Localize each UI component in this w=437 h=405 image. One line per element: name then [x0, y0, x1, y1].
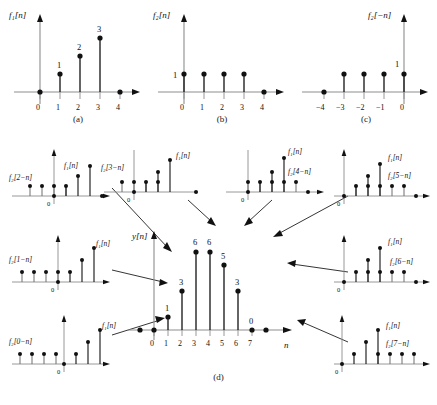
stem-point — [117, 89, 122, 94]
y-axis-arrowhead — [340, 315, 345, 322]
y-axis-arrowhead — [181, 14, 187, 22]
tick-label: 0 — [150, 339, 154, 348]
value-label: 5 — [221, 251, 225, 261]
x-axis-arrowhead — [103, 362, 110, 367]
tick-label: 7 — [248, 339, 252, 348]
result-panel-y: 1 3 6 6 5 3 0 0 1 2 3 4 5 6 7 y[n] n — [126, 218, 316, 358]
overlay-panel-k7: f₂[7−n] f₁[n] 0 — [332, 312, 436, 376]
y-axis-arrowhead — [342, 235, 347, 242]
stem-point — [249, 327, 254, 332]
x-axis-label: n — [284, 340, 289, 350]
tick-label: 3 — [96, 103, 100, 112]
x-axis-arrowhead — [276, 89, 284, 95]
overlay-label-f2: f₂[6−n] — [390, 257, 413, 266]
tick-label: 5 — [220, 339, 224, 348]
value-label: 3 — [179, 277, 183, 287]
stem-point — [37, 89, 42, 94]
tick-label: −4 — [316, 103, 325, 112]
stem-point — [181, 71, 186, 76]
overlay-label-f1: f₁[n] — [288, 147, 302, 156]
overlay-label-f1: f₁[n] — [388, 237, 402, 246]
tick-label: −3 — [336, 103, 345, 112]
overlay-label-f1: f₁[n] — [102, 321, 116, 330]
value-label: 3 — [97, 24, 101, 34]
stem-point — [361, 71, 366, 76]
overlay-k6-chart: f₂[6−n] f₁[n] 0 — [332, 232, 436, 294]
stem-point — [261, 89, 266, 94]
origin-label: 0 — [51, 286, 54, 293]
stem-point — [221, 262, 226, 267]
caption-b: (b) — [152, 114, 292, 124]
stem-point — [193, 249, 198, 254]
tick-label: 1 — [200, 103, 204, 112]
value-label: 0 — [249, 316, 253, 326]
overlay-panel-k5: f₂[5−n] f₁[n] 0 — [332, 146, 436, 208]
overlay-label-f2: f₂[3−n] — [101, 163, 124, 172]
y-axis-label: f₁[n] — [9, 10, 27, 20]
y-axis-label: y[n] — [131, 231, 148, 241]
y-axis-arrowhead — [151, 231, 157, 239]
y-axis-arrowhead — [401, 14, 407, 22]
overlay-label-f2: f₂[0−n] — [9, 337, 32, 346]
origin-label: 0 — [241, 196, 244, 203]
tick-label: 0 — [180, 103, 184, 112]
overlay-k4-chart: f₂[4−n] f₁[n] 0 — [222, 142, 328, 204]
stem-point — [207, 249, 212, 254]
overlay-k7-chart: f₂[7−n] f₁[n] 0 — [332, 312, 436, 376]
overlay-label-f2: f₂[1−n] — [9, 255, 32, 264]
panel-c: 1 −4 −3 −2 −1 0 f₂[−n] (c) — [296, 4, 436, 124]
value-label: 1 — [395, 59, 399, 69]
panel-a-chart: 1 2 3 0 1 2 3 4 f₁[n] — [8, 4, 148, 116]
caption-c: (c) — [296, 114, 436, 124]
caption-d: (d) — [0, 372, 437, 382]
stem-point — [201, 71, 206, 76]
value-label: 1 — [165, 303, 169, 313]
stem-point — [401, 71, 406, 76]
tick-label: 0 — [36, 103, 40, 112]
x-axis-arrowhead — [132, 89, 140, 95]
tick-label: 2 — [76, 103, 80, 112]
overlay-label-f2: f₂[7−n] — [386, 339, 409, 348]
overlay-label-f2: f₂[5−n] — [388, 171, 411, 180]
y-axis-arrowhead — [342, 149, 347, 156]
x-axis-arrowhead — [423, 280, 430, 285]
overlay-panel-k1: f₂[1−n] f₁[n] 0 — [8, 232, 116, 294]
stem-point — [179, 288, 184, 293]
tick-label: −2 — [356, 103, 365, 112]
x-axis-arrowhead — [420, 89, 428, 95]
stem-point — [341, 71, 346, 76]
value-label: 2 — [77, 42, 81, 52]
overlay-label-f1: f₁[n] — [176, 151, 190, 160]
tick-label: 1 — [164, 339, 168, 348]
x-axis-arrowhead — [103, 280, 110, 285]
stem-point — [221, 71, 226, 76]
stem-point — [57, 71, 62, 76]
tick-label: 3 — [192, 339, 196, 348]
stem-point — [97, 35, 102, 40]
tick-label: 4 — [116, 103, 120, 112]
value-label: 6 — [207, 237, 211, 247]
stem-point — [137, 327, 142, 332]
value-label: 1 — [173, 70, 177, 80]
tick-label: 2 — [178, 339, 182, 348]
panel-b-chart: 1 0 1 2 3 4 f₂[n] — [152, 4, 292, 116]
value-label: 3 — [235, 277, 239, 287]
stem-point — [381, 71, 386, 76]
tick-label: 6 — [234, 339, 238, 348]
panel-c-chart: 1 −4 −3 −2 −1 0 f₂[−n] — [296, 4, 436, 116]
value-label: 1 — [57, 60, 61, 70]
overlay-label-f1: f₁[n] — [386, 321, 400, 330]
origin-label: 0 — [337, 286, 340, 293]
x-axis-arrowhead — [423, 362, 430, 367]
y-axis-label: f₂[n] — [153, 10, 171, 20]
panel-b: 1 0 1 2 3 4 f₂[n] (b) — [152, 4, 292, 124]
overlay-k1-chart: f₂[1−n] f₁[n] 0 — [8, 232, 116, 294]
x-axis-arrowhead — [423, 194, 430, 199]
stem-point — [165, 314, 170, 319]
overlay-panel-k4: f₂[4−n] f₁[n] 0 — [222, 142, 328, 204]
overlay-label-f1: f₁[n] — [64, 161, 78, 170]
tick-label: 1 — [56, 103, 60, 112]
overlay-panel-k3: f₂[3−n] f₁[n] 0 — [100, 142, 204, 204]
panel-a: 1 2 3 0 1 2 3 4 f₁[n] (a) — [8, 4, 148, 124]
y-axis-arrowhead — [37, 14, 43, 22]
